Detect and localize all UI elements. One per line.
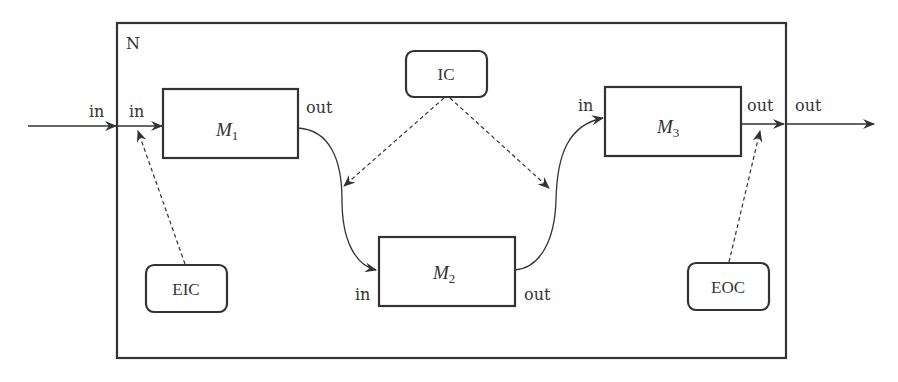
coupling-eic[interactable]: EIC bbox=[146, 265, 227, 312]
network-in-port-label: in bbox=[129, 102, 144, 121]
model-m3-in-port: in bbox=[578, 96, 593, 115]
coupling-ic-label: IC bbox=[438, 65, 455, 84]
model-m2-out-port: out bbox=[524, 285, 551, 304]
coupling-eoc[interactable]: EOC bbox=[688, 263, 769, 310]
external-input: in in bbox=[28, 102, 162, 126]
model-m1[interactable]: M1 out bbox=[163, 89, 333, 158]
model-m2-in-port: in bbox=[355, 285, 370, 304]
external-out-label: out bbox=[795, 96, 822, 115]
model-m3[interactable]: M3 in out bbox=[578, 87, 774, 156]
external-in-label: in bbox=[89, 102, 104, 121]
ic-pointer-right bbox=[450, 98, 549, 188]
coupling-eoc-label: EOC bbox=[711, 278, 745, 297]
coupling-m2-to-m3 bbox=[515, 118, 603, 270]
network-label: N bbox=[126, 34, 140, 53]
model-m2[interactable]: M2 in out bbox=[355, 237, 551, 306]
model-m3-out-port: out bbox=[747, 96, 774, 115]
coupling-ic[interactable]: IC bbox=[406, 51, 487, 97]
coupling-m1-to-m2 bbox=[298, 128, 376, 270]
dev-coupled-model-diagram: N in in M1 out IC M3 in out out M2 in ou… bbox=[0, 0, 898, 382]
coupling-eic-label: EIC bbox=[172, 280, 199, 299]
ic-pointer-left bbox=[344, 98, 444, 186]
model-m1-out-port: out bbox=[306, 98, 333, 117]
